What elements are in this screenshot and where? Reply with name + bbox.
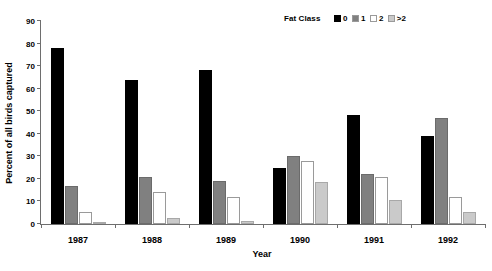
bar-1987-class-2[interactable] [79,212,92,224]
y-axis-tick-label: 80 [26,39,35,48]
x-axis-tick-label: 1988 [142,235,162,245]
x-axis-tick [411,224,412,228]
x-axis-tick [115,224,116,228]
x-axis-tick-label: 1992 [438,235,458,245]
bar-group-1990 [263,21,337,224]
y-axis-tick-label: 40 [26,129,35,138]
x-axis-tick-label: 1989 [216,235,236,245]
bar-1989-class-0[interactable] [199,70,212,225]
x-axis-tick-label: 1987 [68,235,88,245]
x-axis-tick-label: 1991 [364,235,384,245]
y-axis-tick-label: 70 [26,62,35,71]
bar-1988-class-gt2[interactable] [167,218,180,224]
bar-1987-class-1[interactable] [65,186,78,224]
x-axis-tick [337,224,338,228]
bar-1991-class-gt2[interactable] [389,200,402,224]
y-axis-tick-label: 90 [26,17,35,26]
x-axis-tick [263,224,264,228]
bar-1992-class-2[interactable] [449,197,462,224]
bar-group-1989 [189,21,263,224]
bar-group-1992 [411,21,485,224]
y-axis-tick-label: 10 [26,197,35,206]
bar-1991-class-2[interactable] [375,177,388,224]
bar-1989-class-gt2[interactable] [241,221,254,224]
bar-1991-class-1[interactable] [361,174,374,224]
bar-group-1991 [337,21,411,224]
y-axis-tick-label: 0 [31,220,35,229]
x-axis-tick [41,224,42,228]
y-axis-tick-label: 30 [26,152,35,161]
bar-1991-class-0[interactable] [347,115,360,224]
x-axis-title: Year [40,249,484,259]
bar-1987-class-gt2[interactable] [93,222,106,224]
y-axis-title: Percent of all birds captured [2,21,16,224]
bar-chart: Fat Class 012>2 0102030405060708090 1987… [0,0,492,271]
y-axis-title-label: Percent of all birds captured [4,62,14,184]
bar-1989-class-1[interactable] [213,181,226,224]
y-axis-tick-label: 20 [26,174,35,183]
plot-area: 0102030405060708090 19871988198919901991… [40,21,485,225]
bar-1990-class-gt2[interactable] [315,182,328,224]
y-axis-tick-label: 60 [26,84,35,93]
bar-1992-class-1[interactable] [435,118,448,224]
bar-1988-class-0[interactable] [125,80,138,224]
bar-group-1988 [115,21,189,224]
bar-1987-class-0[interactable] [51,48,64,224]
bar-1992-class-0[interactable] [421,136,434,224]
x-axis-tick [485,224,486,228]
bar-1988-class-1[interactable] [139,177,152,224]
bar-1988-class-2[interactable] [153,192,166,224]
y-axis-tick-label: 50 [26,107,35,116]
bar-1990-class-0[interactable] [273,168,286,224]
bar-1992-class-gt2[interactable] [463,212,476,224]
bar-1989-class-2[interactable] [227,197,240,224]
bar-1990-class-2[interactable] [301,161,314,224]
x-axis-tick-label: 1990 [290,235,310,245]
bar-1990-class-1[interactable] [287,156,300,224]
x-axis-tick [189,224,190,228]
bar-group-1987 [41,21,115,224]
